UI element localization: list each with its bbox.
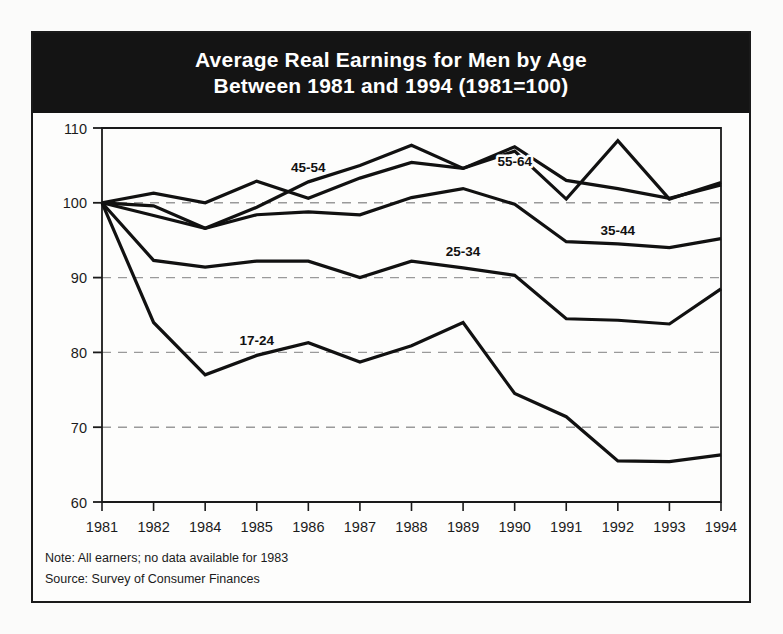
x-tick-label-1987: 1987	[344, 519, 376, 535]
series-label-25-34: 25-34	[446, 244, 481, 259]
x-tick-label-1982: 1982	[137, 519, 169, 535]
series-label-55-64: 55-64	[497, 154, 532, 169]
y-tick-label-90: 90	[71, 270, 87, 286]
series-label-35-44: 35-44	[601, 223, 636, 238]
x-tick-label-1993: 1993	[653, 519, 685, 535]
series-line-17-24	[102, 203, 721, 462]
x-tick-label-1988: 1988	[395, 519, 427, 535]
series-label-17-24: 17-24	[239, 333, 274, 348]
footnote-source: Source: Survey of Consumer Finances	[45, 569, 645, 590]
chart-page: Average Real Earnings for Men by Age Bet…	[0, 0, 783, 634]
line-chart-svg: 6070809010011019811982198419851986198719…	[33, 113, 749, 543]
x-tick-label-1992: 1992	[602, 519, 634, 535]
chart-title-line-2: Between 1981 and 1994 (1981=100)	[214, 73, 569, 99]
footnote-note: Note: All earners; no data available for…	[45, 548, 645, 569]
series-line-35-44	[102, 189, 721, 248]
chart-title-banner: Average Real Earnings for Men by Age Bet…	[33, 33, 749, 113]
x-tick-label-1981: 1981	[86, 519, 118, 535]
chart-title-line-1: Average Real Earnings for Men by Age	[195, 47, 587, 73]
y-tick-label-70: 70	[71, 420, 87, 436]
series-label-45-54: 45-54	[291, 160, 326, 175]
y-tick-label-60: 60	[71, 495, 87, 511]
x-tick-label-1991: 1991	[550, 519, 582, 535]
chart-footnotes: Note: All earners; no data available for…	[45, 548, 645, 589]
series-line-25-34	[102, 203, 721, 324]
y-tick-label-100: 100	[63, 195, 87, 211]
x-tick-label-1986: 1986	[292, 519, 324, 535]
y-tick-label-110: 110	[64, 121, 87, 137]
x-tick-label-1990: 1990	[499, 519, 531, 535]
x-tick-label-1994: 1994	[705, 519, 737, 535]
series-line-45-54	[102, 147, 721, 203]
x-tick-label-1985: 1985	[241, 519, 273, 535]
y-tick-label-80: 80	[71, 345, 87, 361]
series-line-55-64	[102, 141, 721, 229]
chart-plot-area: 6070809010011019811982198419851986198719…	[33, 113, 749, 543]
x-tick-label-1989: 1989	[447, 519, 479, 535]
axis-box	[102, 128, 721, 502]
x-tick-label-1984: 1984	[189, 519, 221, 535]
